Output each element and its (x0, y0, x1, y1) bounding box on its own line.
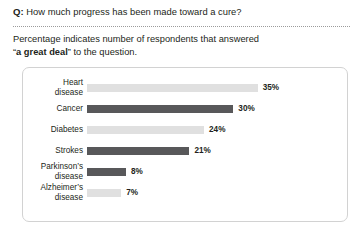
bar-row: Diabetes24% (23, 119, 347, 140)
dotted-divider (13, 26, 350, 27)
bar-row: Heart disease35% (23, 77, 347, 98)
bar-track: 8% (87, 161, 347, 182)
bar-row: Cancer30% (23, 98, 347, 119)
bar (87, 84, 258, 92)
bar-track: 21% (87, 140, 347, 161)
bar (87, 147, 189, 155)
chart-card: Heart disease35%Cancer30%Diabetes24%Stro… (22, 67, 348, 222)
bar-track: 7% (87, 182, 347, 203)
bar-category-label: Parkinson’s disease (23, 162, 83, 181)
chart-page: Q: How much progress has been made towar… (0, 0, 363, 238)
bar-category-label: Cancer (23, 104, 83, 113)
bar (87, 189, 121, 197)
subtitle-line-2: to the question. (71, 47, 137, 57)
bar-row: Alzheimer’s disease7% (23, 182, 347, 203)
bar-track: 30% (87, 98, 347, 119)
bar-chart: Heart disease35%Cancer30%Diabetes24%Stro… (23, 77, 347, 203)
bar (87, 126, 204, 134)
question-header: Q: How much progress has been made towar… (13, 6, 353, 18)
bar-value-label: 24% (209, 125, 225, 134)
subtitle: Percentage indicates number of responden… (13, 33, 343, 59)
bar-value-label: 21% (194, 146, 210, 155)
subtitle-emphasis: a great deal (16, 47, 68, 57)
bar-category-label: Alzheimer’s disease (23, 183, 83, 202)
bar-category-label: Strokes (23, 146, 83, 155)
bar (87, 105, 233, 113)
bar (87, 168, 126, 176)
bar-value-label: 35% (263, 83, 279, 92)
subtitle-line-1: Percentage indicates number of responden… (13, 34, 259, 44)
question-text: How much progress has been made toward a… (26, 6, 241, 17)
bar-row: Parkinson’s disease8% (23, 161, 347, 182)
bar-value-label: 8% (131, 167, 143, 176)
bar-row: Strokes21% (23, 140, 347, 161)
bar-track: 35% (87, 77, 347, 98)
question-marker: Q: (13, 6, 24, 17)
bar-track: 24% (87, 119, 347, 140)
bar-category-label: Diabetes (23, 125, 83, 134)
bar-value-label: 7% (126, 188, 138, 197)
bar-value-label: 30% (238, 104, 254, 113)
bar-category-label: Heart disease (23, 78, 83, 97)
